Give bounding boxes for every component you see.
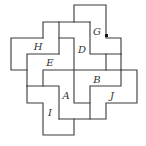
piece-label-g: G: [93, 27, 101, 37]
corner-marker: [105, 34, 108, 37]
piece-label-b: B: [93, 75, 100, 85]
puzzle-diagram: G H D E B A J I: [0, 0, 146, 146]
piece-label-e: E: [46, 58, 53, 68]
piece-label-h: H: [34, 42, 43, 52]
piece-label-a: A: [62, 91, 69, 101]
piece-label-i: I: [48, 108, 52, 118]
piece-outlines: [0, 0, 146, 146]
piece-label-d: D: [78, 45, 86, 55]
piece-label-j: J: [110, 91, 114, 101]
